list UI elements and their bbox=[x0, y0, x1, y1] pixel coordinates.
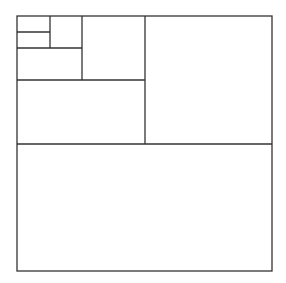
divider-lines bbox=[17, 16, 272, 144]
subdivision-diagram bbox=[0, 0, 286, 283]
